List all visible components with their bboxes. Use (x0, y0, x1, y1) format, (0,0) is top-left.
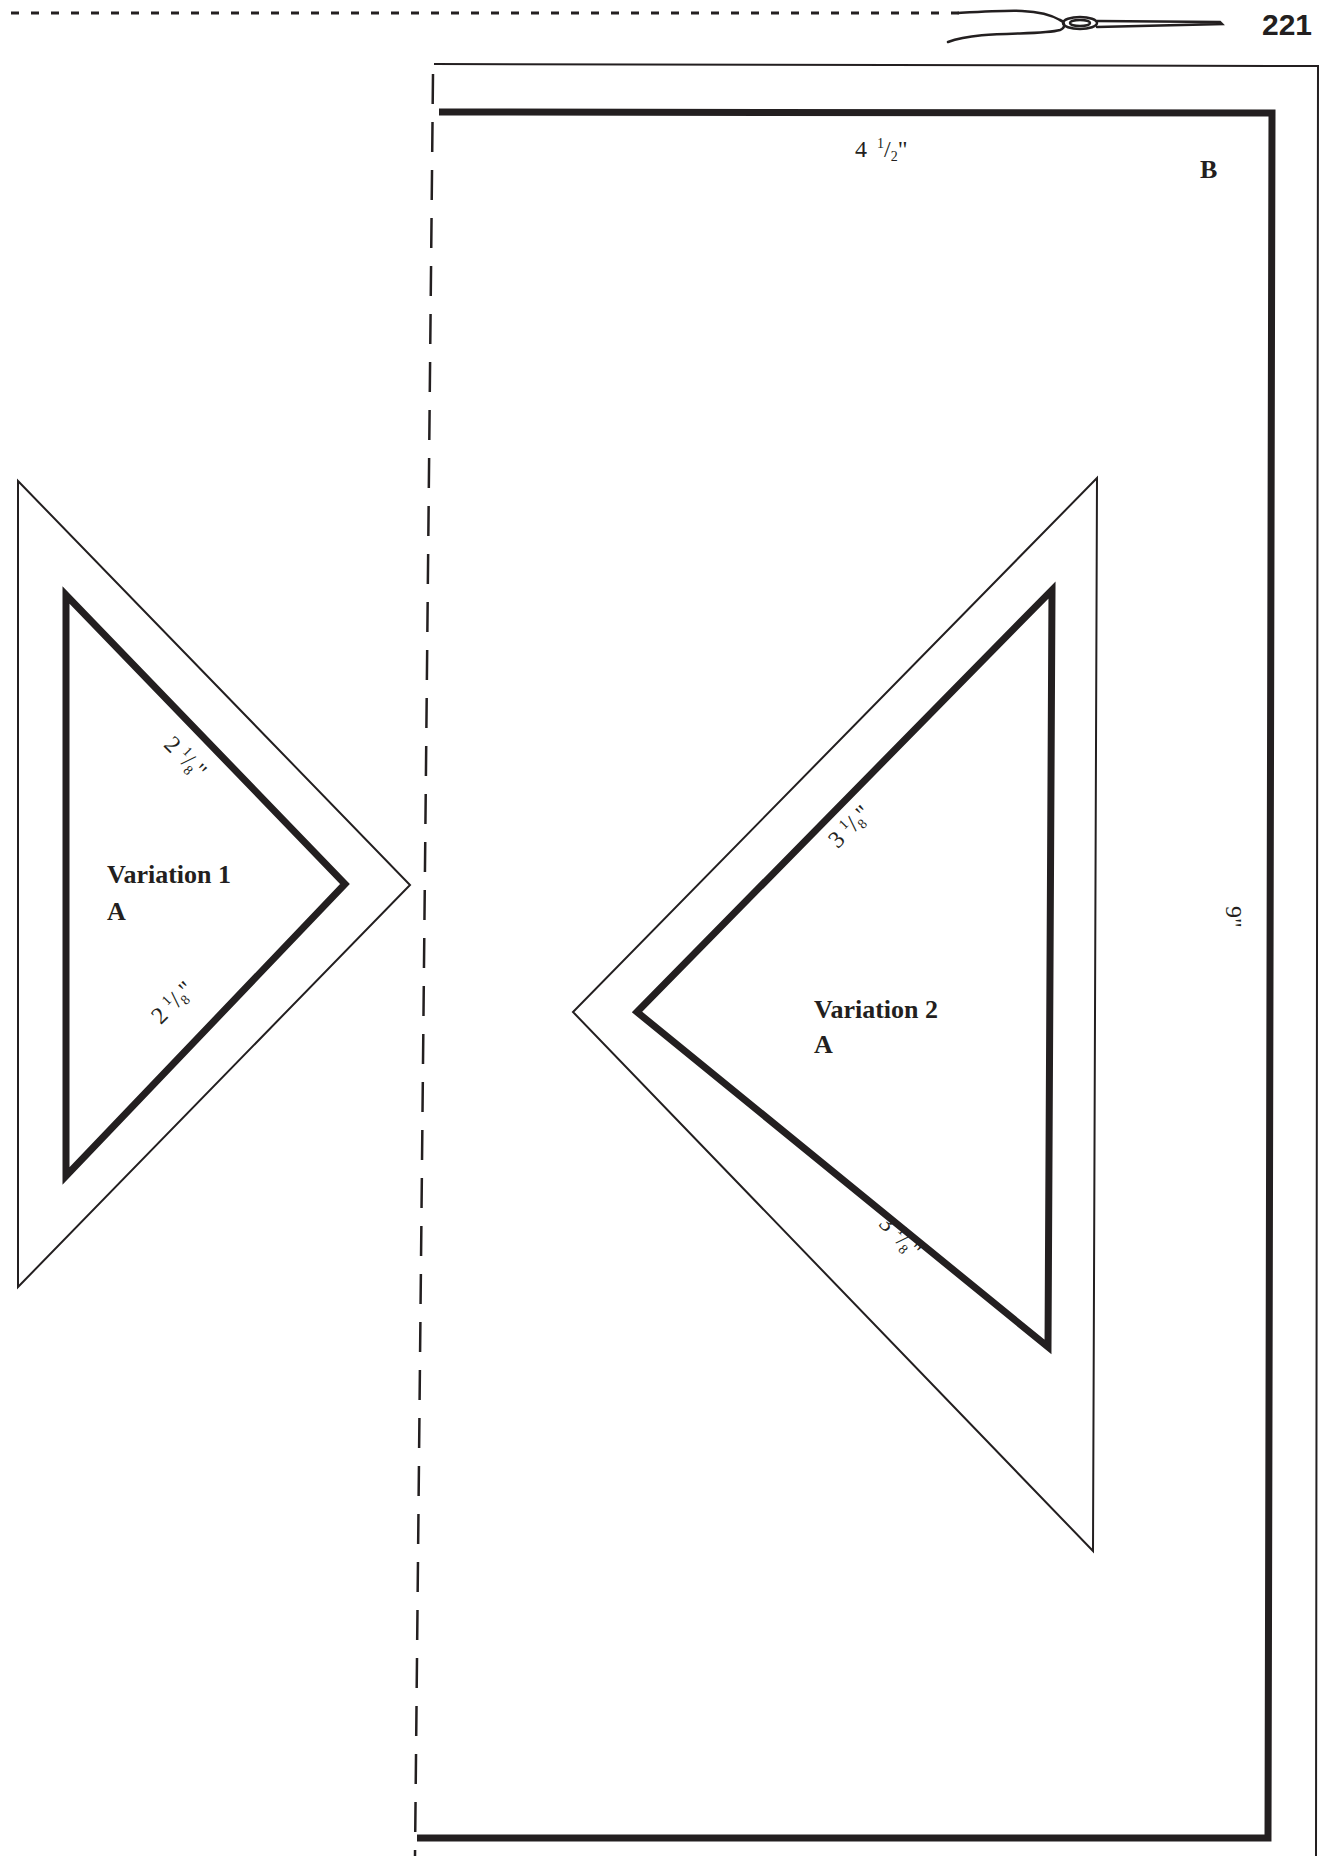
template-page: 221 4 1/2" B 9" Variation 1 A 2 1/8" 2 1… (0, 0, 1321, 1856)
variation-1-edge-label-lower: 2 1/8" (146, 976, 200, 1030)
template-b-label: B (1200, 155, 1217, 184)
template-b-height-label: 9" (1221, 906, 1247, 928)
variation-2-title: Variation 2 (814, 995, 938, 1024)
template-b-outer-edge (434, 64, 1318, 1856)
template-b-inner-edge (417, 112, 1272, 1838)
variation-2-inner-triangle (637, 590, 1052, 1347)
variation-2-piece-label: A (814, 1030, 833, 1059)
variation-1-title: Variation 1 (107, 860, 231, 889)
variation-1-piece-label: A (107, 897, 126, 926)
page-number: 221 (1262, 8, 1312, 41)
needle-thread-icon (948, 11, 1222, 42)
variation-2-edge-label-upper: 3 1/8" (823, 800, 877, 854)
template-b-width-label: 4 1/2" (855, 136, 907, 164)
variation-2-edge-label-lower: 3 1/8" (873, 1210, 927, 1264)
dashed-fold-line (415, 74, 433, 1856)
